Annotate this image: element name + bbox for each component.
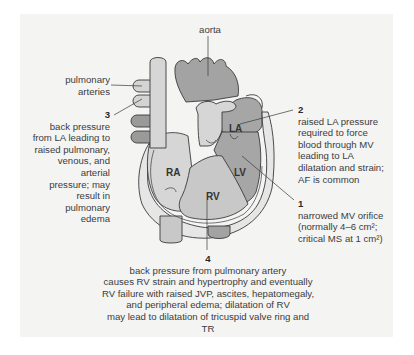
- aorta-label: aorta: [190, 24, 230, 36]
- annotation-number: 2: [298, 104, 393, 116]
- annotation-number: 4: [100, 253, 316, 265]
- annotation-number: 3: [30, 109, 110, 121]
- annotation-3: 3 back pressure from LA leading to raise…: [30, 109, 110, 225]
- chamber-lv-label: LV: [234, 167, 246, 178]
- chamber-rv-label: RV: [206, 191, 220, 202]
- annotation-number: 1: [298, 198, 393, 210]
- pulmonary-arteries-label: pulmonary arteries: [50, 74, 110, 97]
- chamber-la-label: LA: [229, 123, 242, 134]
- chamber-ra-label: RA: [166, 167, 180, 178]
- annotation-2: 2 raised LA pressure required to force b…: [298, 104, 393, 185]
- annotation-4: 4 back pressure from pulmonary artery ca…: [100, 253, 316, 334]
- annotation-1: 1 narrowed MV orifice (normally 4–6 cm²;…: [298, 198, 393, 244]
